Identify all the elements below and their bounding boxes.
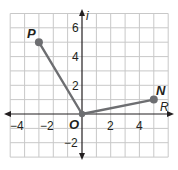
- segment-ON: [82, 100, 154, 114]
- point-label-N: N: [156, 83, 166, 98]
- y-tick-neg2: −2: [64, 136, 78, 150]
- y-tick-4: 4: [72, 50, 79, 64]
- y-tick-6: 6: [72, 21, 79, 35]
- point-label-P: P: [27, 26, 36, 41]
- arrow-left-icon: [4, 111, 11, 117]
- y-tick-2: 2: [72, 79, 79, 93]
- arrow-up-icon: [79, 9, 85, 16]
- origin-label: O: [69, 117, 79, 132]
- x-tick-4: 4: [136, 119, 143, 133]
- point-O: [79, 111, 85, 117]
- x-tick-2: 2: [107, 119, 114, 133]
- real-axis-label: R: [160, 100, 169, 114]
- imaginary-axis-label: i: [86, 9, 89, 23]
- complex-plane-diagram: P N O R i −4 −2 2 4 6 4 2 −2: [0, 0, 178, 170]
- arrow-down-icon: [79, 153, 85, 160]
- x-tick-neg2: −2: [40, 119, 54, 133]
- x-tick-neg4: −4: [10, 119, 24, 133]
- point-P: [35, 38, 43, 46]
